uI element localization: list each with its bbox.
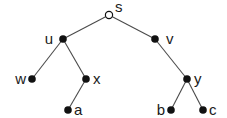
node-x (82, 75, 90, 83)
node-b (167, 106, 175, 114)
node-v (151, 35, 159, 43)
tree-nodes (28, 11, 207, 113)
node-label-x: x (93, 70, 101, 87)
node-label-v: v (166, 30, 174, 47)
edge-s-v (109, 15, 155, 39)
edge-s-u (63, 15, 109, 39)
node-y (183, 75, 191, 83)
node-label-s: s (115, 0, 123, 15)
node-u (59, 35, 67, 43)
node-label-y: y (194, 70, 202, 87)
edge-y-b (171, 79, 187, 110)
node-w (28, 75, 36, 83)
tree-edges (32, 15, 203, 110)
node-s (105, 11, 112, 18)
node-label-w: w (14, 70, 26, 87)
node-label-a: a (74, 101, 83, 118)
node-label-u: u (45, 30, 53, 47)
tree-labels: suvwxaybc (14, 0, 217, 118)
node-label-b: b (157, 101, 165, 118)
node-c (199, 106, 207, 114)
edge-u-x (63, 39, 86, 79)
tree-diagram: suvwxaybc (0, 0, 227, 118)
node-label-c: c (209, 101, 217, 118)
node-a (64, 106, 72, 114)
